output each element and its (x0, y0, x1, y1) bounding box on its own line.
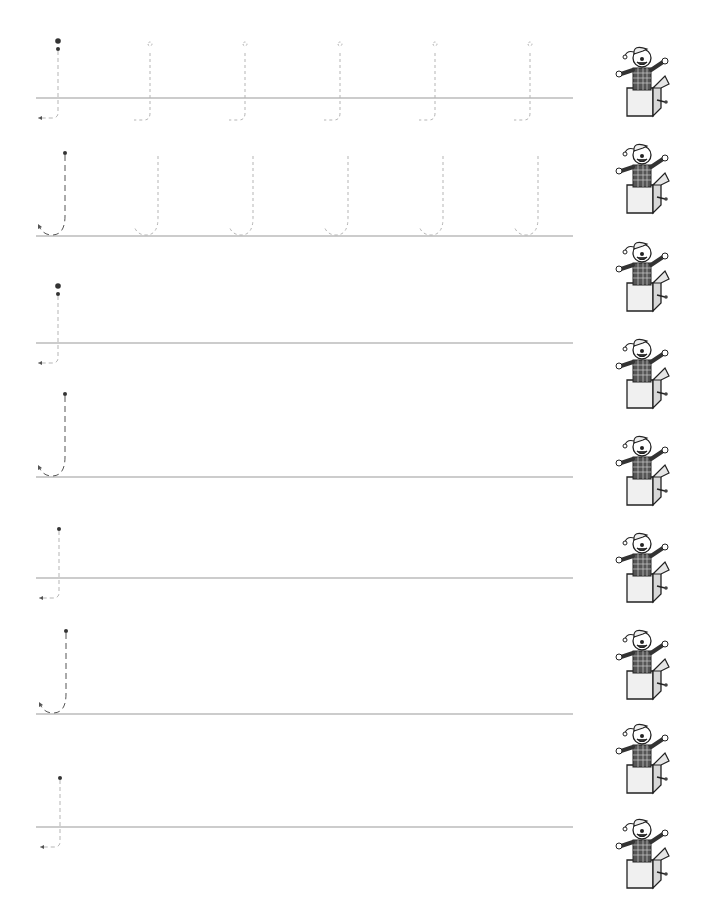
stroke-guide (38, 51, 58, 118)
jack-in-the-box-icon (613, 332, 673, 412)
start-point-icon (63, 392, 67, 396)
trace-letter-J (419, 156, 443, 235)
stroke-guide (38, 296, 58, 363)
trace-dot (528, 42, 532, 46)
jack-in-the-box-icon (613, 429, 673, 509)
trace-dot (243, 42, 247, 46)
arrow-icon (38, 116, 42, 120)
trace-letter-j (134, 53, 150, 120)
arrow-icon (38, 361, 42, 365)
trace-letter-J (324, 156, 348, 235)
start-point-icon (63, 151, 67, 155)
jack-in-the-box-icon (613, 526, 673, 606)
trace-letter-J (514, 156, 538, 235)
jack-in-the-box-icon (613, 717, 673, 797)
jack-in-the-box-icon (613, 137, 673, 217)
start-point-icon (56, 292, 60, 296)
jack-in-the-box-icon (613, 235, 673, 315)
start-point-icon (57, 527, 61, 531)
jack-in-the-box-icon (613, 429, 673, 509)
trace-letter-j (514, 53, 530, 120)
trace-dot (433, 42, 437, 46)
arrow-icon (40, 845, 44, 849)
trace-dot (148, 42, 152, 46)
stroke-guide (39, 531, 59, 598)
trace-letter-j (419, 53, 435, 120)
trace-letter-j (324, 53, 340, 120)
dot-icon (55, 38, 61, 44)
handwriting-worksheet (0, 0, 705, 918)
jack-in-the-box-icon (613, 235, 673, 315)
stroke-guide (40, 633, 66, 713)
start-point-icon (58, 776, 62, 780)
jack-in-the-box-icon (613, 526, 673, 606)
jack-in-the-box-icon (613, 332, 673, 412)
jack-in-the-box-icon (613, 40, 673, 120)
start-point-icon (64, 629, 68, 633)
jack-in-the-box-icon (613, 623, 673, 703)
arrow-icon (39, 596, 43, 600)
trace-letter-j (229, 53, 245, 120)
jack-in-the-box-icon (613, 137, 673, 217)
practice-lines (0, 0, 705, 918)
stroke-guide (39, 155, 65, 235)
jack-in-the-box-icon (613, 40, 673, 120)
jack-in-the-box-icon (613, 623, 673, 703)
start-point-icon (56, 47, 60, 51)
trace-letter-J (229, 156, 253, 235)
stroke-guide (40, 780, 60, 847)
jack-in-the-box-icon (613, 812, 673, 892)
dot-icon (55, 283, 61, 289)
jack-in-the-box-icon (613, 717, 673, 797)
jack-in-the-box-icon (613, 812, 673, 892)
stroke-guide (39, 396, 65, 476)
trace-dot (338, 42, 342, 46)
trace-letter-J (134, 156, 158, 235)
